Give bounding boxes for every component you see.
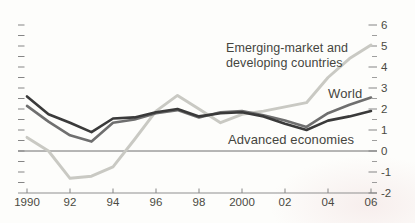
y-tick-label: 0 [381, 145, 387, 157]
x-tick-label: 04 [322, 196, 335, 208]
x-tick-label: 06 [365, 196, 378, 208]
y-tick-label: 5 [381, 40, 387, 52]
y-tick-label: 6 [381, 19, 387, 31]
chart-canvas: 6543210-1-21990929496982000020406 [0, 0, 415, 223]
series-label-emerging-market: Emerging-market and developing countries [226, 41, 348, 70]
y-tick-label: -1 [381, 166, 391, 178]
y-tick-label: -2 [381, 187, 391, 199]
gdp-growth-line-chart: 6543210-1-21990929496982000020406 Emergi… [0, 0, 415, 223]
x-tick-label: 96 [150, 196, 163, 208]
x-tick-label: 2000 [229, 196, 255, 208]
y-tick-label: 1 [381, 124, 387, 136]
x-axis-ticks: 1990929496982000020406 [14, 189, 377, 209]
x-tick-label: 98 [193, 196, 206, 208]
chart-page: 6543210-1-21990929496982000020406 Emergi… [0, 0, 415, 223]
y-tick-label: 2 [381, 103, 387, 115]
series-label-world: World [328, 87, 362, 102]
x-tick-label: 92 [64, 196, 77, 208]
series-label-advanced-economies: Advanced economies [228, 133, 354, 148]
y-tick-label: 3 [381, 82, 387, 94]
series-line-advanced-economies [27, 96, 371, 132]
y-tick-label: 4 [381, 61, 388, 73]
x-tick-label: 1990 [14, 196, 40, 208]
x-tick-label: 94 [107, 196, 120, 208]
x-tick-label: 02 [279, 196, 292, 208]
left-axis-ticks [18, 25, 25, 183]
